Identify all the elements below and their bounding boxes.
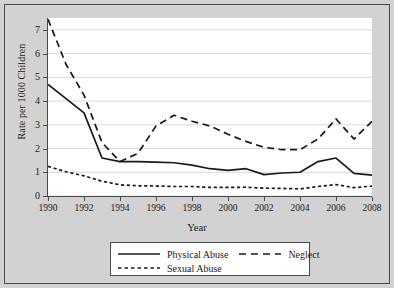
legend-swatch-short-dash (117, 263, 161, 273)
x-tick-mark (300, 197, 301, 201)
x-tick-label: 2000 (208, 203, 248, 213)
x-tick-label: 1994 (100, 203, 140, 213)
legend-row-1: Physical Abuse Neglect (117, 247, 329, 261)
x-tick-mark (192, 197, 193, 201)
legend-label-neglect: Neglect (288, 249, 319, 260)
y-tick-label: 7 (20, 25, 40, 35)
x-tick-label: 2008 (352, 203, 392, 213)
y-tick-label: 0 (20, 191, 40, 201)
x-tick-mark (264, 197, 265, 201)
y-tick-label: 3 (20, 120, 40, 130)
x-tick-mark (336, 197, 337, 201)
x-tick-mark (228, 197, 229, 201)
legend-label-physical-abuse: Physical Abuse (167, 249, 228, 260)
y-tick-label: 1 (20, 167, 40, 177)
y-tick-mark (43, 30, 47, 31)
legend-item-neglect: Neglect (238, 249, 319, 260)
legend-item-physical-abuse: Physical Abuse (117, 249, 228, 260)
y-tick-label: 2 (20, 144, 40, 154)
y-tick-label: 5 (20, 72, 40, 82)
y-tick-mark (43, 77, 47, 78)
x-tick-label: 2006 (316, 203, 356, 213)
x-axis-label: Year (0, 222, 394, 233)
x-tick-mark (156, 197, 157, 201)
x-tick-label: 1992 (64, 203, 104, 213)
y-tick-mark (43, 125, 47, 126)
legend-label-sexual-abuse: Sexual Abuse (167, 263, 222, 274)
x-tick-label: 2004 (280, 203, 320, 213)
series-canvas (48, 18, 372, 196)
figure-container: Rate per 1000 Children 01234567 19901992… (0, 0, 394, 288)
y-tick-mark (43, 54, 47, 55)
x-tick-mark (120, 197, 121, 201)
y-tick-mark (43, 172, 47, 173)
plot-area (48, 18, 372, 196)
legend: Physical Abuse Neglect Sexual Abuse (110, 242, 310, 276)
legend-swatch-solid (117, 249, 161, 259)
y-tick-mark (43, 101, 47, 102)
legend-row-2: Sexual Abuse (117, 261, 232, 275)
x-tick-label: 1990 (28, 203, 68, 213)
y-tick-label: 6 (20, 49, 40, 59)
x-tick-mark (84, 197, 85, 201)
y-axis-label: Rate per 1000 Children (16, 22, 27, 162)
legend-swatch-long-dash (238, 249, 282, 259)
x-tick-label: 1998 (172, 203, 212, 213)
x-tick-mark (48, 197, 49, 201)
y-tick-mark (43, 196, 47, 197)
x-axis-line (47, 196, 372, 197)
legend-item-sexual-abuse: Sexual Abuse (117, 263, 222, 274)
series-line-sexual-abuse (48, 166, 372, 189)
series-line-neglect (48, 19, 372, 161)
x-tick-label: 1996 (136, 203, 176, 213)
x-tick-mark (372, 197, 373, 201)
x-tick-label: 2002 (244, 203, 284, 213)
y-tick-label: 4 (20, 96, 40, 106)
y-tick-mark (43, 149, 47, 150)
